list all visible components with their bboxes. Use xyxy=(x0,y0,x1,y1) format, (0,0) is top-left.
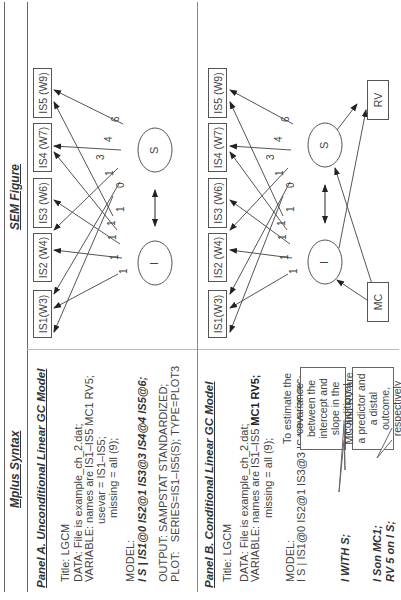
loading-label: 1 xyxy=(109,254,121,260)
loading-label: 0 xyxy=(115,182,127,188)
loading-label: 1 xyxy=(118,268,130,274)
loading-label: 1 xyxy=(279,254,291,260)
panel-b-box-is3: IS3 (W6) xyxy=(208,178,227,228)
panel-b-latent-i: I xyxy=(318,261,330,264)
predictor-box-mc: MC xyxy=(367,282,389,322)
loading-label: 4 xyxy=(273,136,285,142)
loading-label: 3 xyxy=(95,154,107,160)
loading-label: 4 xyxy=(103,136,115,142)
panel-b-box-is5: IS5 (W9) xyxy=(208,68,227,118)
panel-b-box-is1: IS1(W3) xyxy=(208,290,227,338)
loading-label: 1 xyxy=(285,206,297,212)
loading-label: 1 xyxy=(104,170,116,176)
loading-label: 1 xyxy=(277,234,289,240)
loading-label: 0 xyxy=(285,182,297,188)
loading-label: 6 xyxy=(280,116,292,122)
panel-b-latent-s: S xyxy=(318,142,330,149)
panel-a-box-is3: IS3 (W6) xyxy=(33,178,52,228)
loading-label: 1 xyxy=(274,170,286,176)
loading-label: 1 xyxy=(107,234,119,240)
loading-label: 1 xyxy=(106,220,118,226)
panel-a-box-is4: IS4 (W7) xyxy=(33,123,52,172)
outcome-box-rv: RV xyxy=(367,80,389,120)
sem-diagram-lines xyxy=(0,0,401,600)
document-page: Mplus Syntax SEM Figure Panel A. Uncondi… xyxy=(0,0,401,600)
loading-label: 1 xyxy=(115,206,127,212)
loading-label: 6 xyxy=(110,116,122,122)
panel-a-box-is5: IS5 (W9) xyxy=(33,68,52,118)
panel-a-latent-s: S xyxy=(148,147,160,154)
loading-label: 3 xyxy=(265,154,277,160)
panel-a-box-is2: IS2 (W4) xyxy=(33,233,52,282)
loading-label: 1 xyxy=(276,220,288,226)
panel-b-box-is4: IS4 (W7) xyxy=(208,123,227,172)
panel-a-box-is1: IS1(W3) xyxy=(33,290,52,338)
panel-a-latent-i: I xyxy=(148,262,160,265)
panel-b-box-is2: IS2 (W4) xyxy=(208,233,227,282)
loading-label: 1 xyxy=(288,268,300,274)
